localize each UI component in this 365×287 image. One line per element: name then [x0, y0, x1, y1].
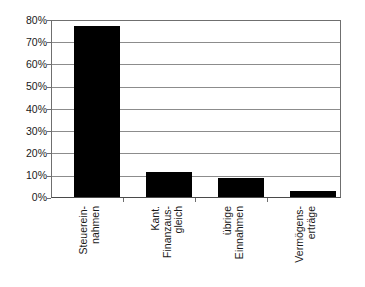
- y-axis-label-60: 60%: [26, 59, 47, 70]
- y-axis-label-0: 0%: [32, 192, 47, 203]
- bar-kant-finanzausgleich: [146, 172, 192, 197]
- x-axis-label-line: Einnahmen: [234, 206, 246, 284]
- x-axis-tick-3: [267, 198, 268, 202]
- y-axis-label-30: 30%: [26, 126, 47, 137]
- y-axis-label-70: 70%: [26, 37, 47, 48]
- x-axis-label-vermoegensertraege: Vermögens- erträge: [294, 206, 317, 284]
- x-axis-label-line: übrige: [222, 206, 234, 284]
- y-axis-label-40: 40%: [26, 104, 47, 115]
- bar-chart: 80% 70% 60% 50% 40% 30% 20% 10% 0% Steue…: [0, 0, 365, 287]
- y-axis-label-80: 80%: [26, 15, 47, 26]
- y-axis-label-10: 10%: [26, 170, 47, 181]
- x-axis-label-line: erträge: [306, 206, 318, 284]
- x-axis-label-uebrige-einnahmen: übrige Einnahmen: [222, 206, 245, 284]
- x-axis-label-kant-finanzausgleich: Kant. Finanzaus- gleich: [150, 206, 185, 284]
- x-axis-tick-2: [195, 198, 196, 202]
- bar-vermoegensertraege: [290, 191, 336, 197]
- x-axis-label-line: nahmen: [90, 206, 102, 284]
- plot-area: [51, 20, 341, 198]
- x-axis-label-steuereinnahmen: Steuerein- nahmen: [78, 206, 101, 284]
- x-axis-tick-1: [123, 198, 124, 202]
- x-axis-label-line: Steuerein-: [78, 206, 90, 284]
- bar-uebrige-einnahmen: [218, 178, 264, 197]
- x-axis-label-line: gleich: [173, 206, 185, 284]
- y-axis-tick-0: [47, 198, 51, 199]
- x-axis-label-line: Kant.: [150, 206, 162, 284]
- x-axis-label-line: Vermögens-: [294, 206, 306, 284]
- y-axis-label-50: 50%: [26, 81, 47, 92]
- y-axis-label-20: 20%: [26, 148, 47, 159]
- bar-steuereinnahmen: [74, 26, 120, 197]
